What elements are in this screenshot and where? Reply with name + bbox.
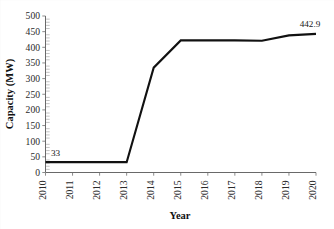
x-tick-label: 2018 xyxy=(253,180,264,199)
x-tick-label: 2020 xyxy=(307,180,318,199)
x-axis-tick-labels: 2010201120122013201420152016201720182019… xyxy=(37,180,319,199)
y-tick-label: 450 xyxy=(26,26,41,37)
x-axis-ticks xyxy=(46,173,317,176)
y-axis-title: Capacity (MW) xyxy=(4,58,16,129)
y-tick-label: 400 xyxy=(26,42,41,53)
x-tick-label: 2012 xyxy=(91,180,102,199)
y-tick-label: 50 xyxy=(30,151,40,162)
chart-canvas: 050100150200250300350400450500 201020112… xyxy=(0,0,334,229)
x-tick-label: 2011 xyxy=(64,180,75,199)
last-point-label: 442.9 xyxy=(300,19,321,29)
y-tick-label: 300 xyxy=(26,73,41,84)
x-tick-label: 2019 xyxy=(280,180,291,199)
x-tick-label: 2010 xyxy=(37,180,48,199)
y-axis-ticks xyxy=(42,16,45,173)
capacity-by-year-line-chart: 050100150200250300350400450500 201020112… xyxy=(0,0,334,229)
x-tick-label: 2016 xyxy=(199,180,210,199)
y-tick-label: 500 xyxy=(26,10,41,21)
first-point-label: 33 xyxy=(51,148,61,158)
data-series-group xyxy=(46,34,317,162)
y-tick-label: 100 xyxy=(26,136,41,147)
x-tick-label: 2017 xyxy=(226,180,237,199)
y-tick-label: 150 xyxy=(26,120,41,131)
y-axis-tick-labels: 050100150200250300350400450500 xyxy=(26,10,41,178)
y-tick-label: 200 xyxy=(26,104,41,115)
y-axis-minor-ticks xyxy=(46,19,50,169)
x-tick-label: 2014 xyxy=(145,180,156,199)
series-line-Capacity xyxy=(46,34,317,162)
y-tick-label: 350 xyxy=(26,57,41,68)
x-tick-label: 2015 xyxy=(172,180,183,199)
y-tick-label: 0 xyxy=(35,167,40,178)
y-tick-label: 250 xyxy=(26,89,41,100)
x-tick-label: 2013 xyxy=(118,180,129,199)
x-axis-title: Year xyxy=(170,210,191,221)
